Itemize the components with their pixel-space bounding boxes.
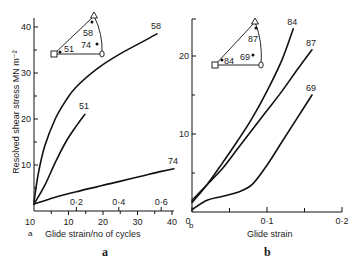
panel-a-x-origin-label: 10 (25, 217, 35, 227)
panel-b-curve-label-84: 84 (287, 17, 297, 27)
panel-a-y-tick-label: 20 (21, 114, 31, 124)
panel-b-x-tick-label: 0·2 (335, 216, 348, 226)
panel-a-curve-label-58: 58 (151, 21, 161, 31)
inset-point-74 (96, 43, 99, 46)
panel-a-x-tick-label-cycles: 40 (167, 217, 177, 227)
panel-a-inset-triangle: 585174 (51, 12, 104, 57)
panel-a-curve-label-74: 74 (168, 156, 178, 166)
panel-a: 1020304010203040100·20·40·6 585174 Resol… (11, 12, 178, 259)
inset-point-label-74: 74 (81, 40, 91, 50)
panel-a-y-tick-label: 40 (21, 22, 31, 32)
panel-b-corner-label: b (189, 221, 194, 230)
inset-point-label-51: 51 (64, 44, 74, 54)
inset-point-label-84: 84 (224, 56, 234, 66)
panel-a-x-tick-label-strain: 0·2 (70, 197, 83, 207)
panel-a-x-tick-label-strain: 0·6 (155, 197, 168, 207)
panel-a-curve-label-51: 51 (79, 101, 89, 111)
panel-a-x-tick-label-cycles: 20 (98, 217, 108, 227)
inset-triangle-outline (54, 16, 102, 54)
panel-b-curve-label-87: 87 (306, 38, 316, 48)
panel-a-y-axis-label: Resolved shear stress MN m⁻² (11, 50, 21, 174)
panel-a-x-tick-label-cycles: 30 (132, 217, 142, 227)
square-marker-icon (212, 62, 218, 68)
panel-a-y-tick-label: 30 (21, 68, 31, 78)
panel-a-x-axis-label: Glide strain/no of cycles (45, 229, 141, 239)
panel-b: 102000·10·2 848769 Glide strain b b 8784… (179, 17, 349, 259)
figure: 1020304010203040100·20·40·6 585174 Resol… (0, 0, 361, 264)
panel-b-curve-87 (192, 50, 312, 201)
panel-a-curve-74 (34, 169, 174, 204)
panel-b-y-tick-label: 10 (179, 129, 189, 139)
triangle-marker-icon (252, 18, 259, 24)
panel-b-curve-69 (192, 95, 312, 210)
inset-point-87 (255, 27, 258, 30)
panel-b-inset-triangle: 878469 (212, 18, 263, 68)
inset-point-69 (252, 54, 255, 57)
panel-b-caption: b (264, 245, 271, 259)
inset-point-label-58: 58 (83, 28, 93, 38)
inset-point-label-69: 69 (240, 52, 250, 62)
panel-a-y-tick-label: 10 (21, 160, 31, 170)
inset-point-label-87: 87 (248, 34, 258, 44)
panel-b-x-tick-label: 0·1 (260, 216, 273, 226)
circle-marker-icon (259, 62, 263, 68)
panel-a-x-tick-label-cycles: 10 (63, 217, 73, 227)
inset-point-58 (91, 21, 94, 24)
triangle-marker-icon (91, 12, 98, 18)
square-marker-icon (51, 51, 57, 57)
panel-a-x-tick-label-strain: 0·4 (112, 197, 125, 207)
panel-a-caption: a (102, 245, 108, 259)
inset-point-51 (59, 51, 62, 54)
panel-b-curve-label-69: 69 (306, 83, 316, 93)
panel-a-corner-label: a (28, 229, 33, 238)
panel-b-y-tick-label: 20 (179, 51, 189, 61)
panel-b-x-axis-label: Glide strain (247, 229, 293, 239)
circle-marker-icon (100, 51, 104, 57)
